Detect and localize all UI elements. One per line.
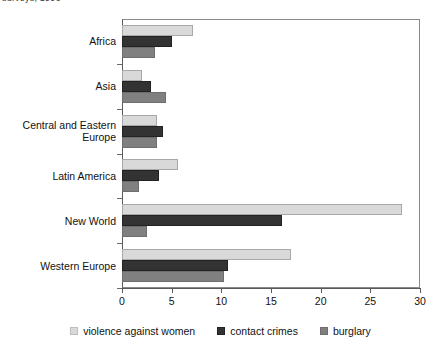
bar-new-world-violence-against-women (122, 204, 402, 215)
plot-area (122, 19, 420, 288)
bar-asia-violence-against-women (122, 70, 142, 81)
x-axis-tick (321, 288, 322, 293)
y-axis-category-label: Latin America (0, 170, 116, 182)
y-axis-tick (117, 109, 122, 110)
x-axis-tick-label: 25 (350, 295, 390, 307)
bar-central-and-eastern-europe-violence-against-women (122, 115, 157, 126)
legend-swatch-icon (217, 327, 225, 335)
x-axis-tick-label: 5 (152, 295, 192, 307)
chart-legend: violence against womencontact crimesburg… (0, 325, 441, 337)
x-axis-tick (420, 288, 421, 293)
y-axis-labels: AfricaAsiaCentral and Eastern EuropeLati… (0, 19, 116, 288)
x-axis-tick (271, 288, 272, 293)
bar-africa-burglary (122, 47, 155, 58)
x-axis-tick-label: 15 (251, 295, 291, 307)
legend-swatch-icon (320, 327, 328, 335)
bar-asia-burglary (122, 92, 166, 103)
x-axis-tick-label: 20 (301, 295, 341, 307)
y-axis-category-label: Africa (0, 35, 116, 47)
legend-item: contact crimes (217, 325, 298, 337)
bar-western-europe-contact-crimes (122, 260, 228, 271)
y-axis-category-label: Asia (0, 80, 116, 92)
x-axis-tick (370, 288, 371, 293)
legend-item: burglary (320, 325, 371, 337)
x-axis-tick-label: 0 (102, 295, 142, 307)
chart-title-fragment: surveys, 1996 (2, 0, 202, 5)
x-axis-tick (122, 288, 123, 293)
legend-swatch-icon (70, 327, 78, 335)
legend-label: violence against women (83, 325, 195, 337)
bar-western-europe-burglary (122, 271, 224, 282)
bar-central-and-eastern-europe-contact-crimes (122, 126, 163, 137)
y-axis-category-label: New World (0, 215, 116, 227)
bar-africa-violence-against-women (122, 25, 193, 36)
x-axis-tick (221, 288, 222, 293)
bar-new-world-contact-crimes (122, 215, 282, 226)
x-axis-tick (172, 288, 173, 293)
bar-latin-america-contact-crimes (122, 170, 159, 181)
y-axis-category-label: Western Europe (0, 260, 116, 272)
y-axis-tick (117, 64, 122, 65)
bar-central-and-eastern-europe-burglary (122, 137, 157, 148)
bar-africa-contact-crimes (122, 36, 172, 47)
legend-label: contact crimes (230, 325, 298, 337)
x-axis-tick-label: 10 (201, 295, 241, 307)
y-axis-tick (117, 243, 122, 244)
y-axis-tick (117, 154, 122, 155)
x-axis-tick-label: 30 (400, 295, 440, 307)
bar-chart: surveys, 1996 AfricaAsiaCentral and East… (0, 0, 441, 351)
legend-item: violence against women (70, 325, 195, 337)
legend-label: burglary (333, 325, 371, 337)
bar-new-world-burglary (122, 226, 147, 237)
y-axis-category-label: Central and Eastern Europe (0, 119, 116, 143)
bar-western-europe-violence-against-women (122, 249, 291, 260)
bar-asia-contact-crimes (122, 81, 151, 92)
y-axis-tick (117, 198, 122, 199)
bar-latin-america-burglary (122, 181, 139, 192)
bar-latin-america-violence-against-women (122, 159, 178, 170)
